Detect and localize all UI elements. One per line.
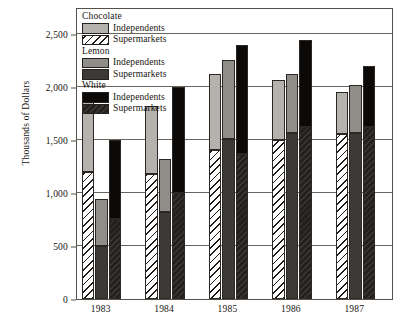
bar-segment-white-independents-1984 xyxy=(172,87,185,193)
bar-segment-lemon-supermarkets-1984 xyxy=(159,212,172,299)
legend-swatch-icon-white-supermarkets xyxy=(82,104,109,115)
bar-segment-white-independents-1987 xyxy=(363,66,376,127)
bar-segment-white-supermarkets-1983 xyxy=(109,219,122,299)
legend-label: Independents xyxy=(113,57,165,69)
bar-chocolate-1984 xyxy=(145,106,158,299)
bar-segment-lemon-independents-1986 xyxy=(286,74,299,133)
legend-label: Supermarkets xyxy=(113,34,166,46)
legend-label: Independents xyxy=(113,23,165,35)
bar-segment-chocolate-independents-1987 xyxy=(336,92,349,134)
bar-chocolate-1987 xyxy=(336,92,349,299)
bar-lemon-1984 xyxy=(159,159,172,299)
legend-group-title-white: White xyxy=(82,80,166,92)
legend-swatch-icon-chocolate-supermarkets xyxy=(82,35,109,46)
bar-segment-lemon-supermarkets-1985 xyxy=(222,139,235,299)
legend-item-lemon-supermarkets[interactable]: Supermarkets xyxy=(82,69,166,81)
x-tick-label-1985: 1985 xyxy=(193,304,263,314)
legend-item-chocolate-independents[interactable]: Independents xyxy=(82,23,166,35)
bar-segment-lemon-supermarkets-1986 xyxy=(286,133,299,299)
bar-segment-white-independents-1983 xyxy=(109,140,122,220)
bar-segment-chocolate-supermarkets-1985 xyxy=(209,150,222,299)
bar-segment-chocolate-independents-1985 xyxy=(209,74,222,150)
x-tick-label-1983: 1983 xyxy=(66,304,136,314)
chart-legend: ChocolateIndependentsSupermarketsLemonIn… xyxy=(82,11,166,115)
legend-swatch-icon-lemon-independents xyxy=(82,58,109,69)
bar-segment-lemon-independents-1984 xyxy=(159,159,172,212)
legend-group-title-lemon: Lemon xyxy=(82,46,166,58)
bar-segment-chocolate-supermarkets-1987 xyxy=(336,134,349,299)
bar-chart: Thousands of Dollars 05001,0001,5002,000… xyxy=(0,0,405,328)
y-tick-label-500: 500 xyxy=(24,242,68,252)
bar-lemon-1983 xyxy=(95,199,108,299)
bar-chocolate-1983 xyxy=(82,98,95,299)
y-tick-label-2500: 2,500 xyxy=(24,30,68,40)
bar-segment-lemon-independents-1983 xyxy=(95,199,108,246)
bar-segment-chocolate-supermarkets-1984 xyxy=(145,174,158,299)
legend-item-chocolate-supermarkets[interactable]: Supermarkets xyxy=(82,34,166,46)
bar-lemon-1986 xyxy=(286,74,299,299)
legend-swatch-icon-white-independents xyxy=(82,92,109,103)
x-tick-label-1984: 1984 xyxy=(129,304,199,314)
bar-segment-chocolate-independents-1984 xyxy=(145,106,158,174)
bar-white-1983 xyxy=(109,140,122,299)
legend-item-lemon-independents[interactable]: Independents xyxy=(82,57,166,69)
bar-segment-white-supermarkets-1987 xyxy=(363,127,376,299)
bar-white-1984 xyxy=(172,87,185,299)
bar-segment-lemon-independents-1985 xyxy=(222,60,235,139)
bar-lemon-1987 xyxy=(349,85,362,299)
bar-segment-lemon-supermarkets-1983 xyxy=(95,246,108,299)
legend-group-title-chocolate: Chocolate xyxy=(82,11,166,23)
bar-segment-white-supermarkets-1984 xyxy=(172,193,185,299)
bar-white-1987 xyxy=(363,66,376,299)
bar-segment-chocolate-supermarkets-1983 xyxy=(82,172,95,299)
legend-label: Supermarkets xyxy=(113,103,166,115)
bar-segment-lemon-supermarkets-1987 xyxy=(349,133,362,299)
bar-segment-white-independents-1985 xyxy=(236,45,249,153)
legend-item-white-supermarkets[interactable]: Supermarkets xyxy=(82,103,166,115)
x-tick-label-1986: 1986 xyxy=(256,304,326,314)
x-tick-label-1987: 1987 xyxy=(319,304,389,314)
bar-segment-chocolate-independents-1986 xyxy=(272,80,285,139)
legend-item-white-independents[interactable]: Independents xyxy=(82,92,166,104)
bar-lemon-1985 xyxy=(222,60,235,299)
bar-chocolate-1985 xyxy=(209,74,222,299)
bar-segment-white-supermarkets-1986 xyxy=(299,127,312,299)
bar-chocolate-1986 xyxy=(272,80,285,299)
bar-segment-white-independents-1986 xyxy=(299,40,312,127)
legend-swatch-icon-chocolate-independents xyxy=(82,23,109,34)
legend-label: Independents xyxy=(113,92,165,104)
bar-segment-chocolate-supermarkets-1986 xyxy=(272,140,285,299)
legend-label: Supermarkets xyxy=(113,69,166,81)
y-tick-label-0: 0 xyxy=(24,295,68,305)
bar-white-1985 xyxy=(236,45,249,299)
y-tick-label-1500: 1,500 xyxy=(24,136,68,146)
bar-segment-lemon-independents-1987 xyxy=(349,85,362,134)
y-tick-label-2000: 2,000 xyxy=(24,83,68,93)
bar-segment-white-supermarkets-1985 xyxy=(236,154,249,299)
bar-white-1986 xyxy=(299,40,312,299)
y-tick-label-1000: 1,000 xyxy=(24,189,68,199)
y-axis-title: Thousands of Dollars xyxy=(21,43,31,203)
legend-swatch-icon-lemon-supermarkets xyxy=(82,69,109,80)
